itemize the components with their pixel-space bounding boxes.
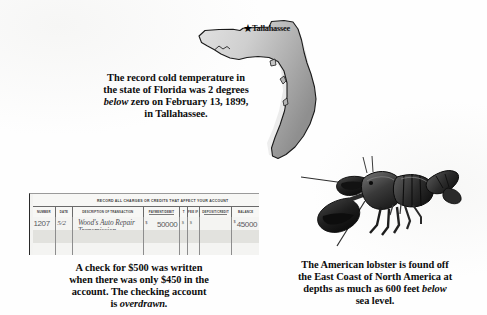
florida-caption-line3: zero on February 13, 1899, (128, 96, 248, 107)
cell-balance-amount: $45000 (232, 217, 259, 230)
lobster-eye (369, 181, 373, 185)
cell-date: 5/2 (56, 217, 73, 230)
check-register-body: RECORD ALL CHARGES OR CREDITS THAT AFFEC… (33, 194, 260, 255)
cell-payment-amount: $50000 (144, 217, 180, 230)
florida-caption-italic-word: below (104, 96, 129, 107)
florida-caption-line4: in Tallahassee. (144, 108, 207, 119)
antennule-right (372, 156, 373, 172)
lobster-caption-italic-word: below (422, 283, 447, 294)
walking-leg-4 (405, 206, 410, 229)
check-caption: A check for $500 was written when there … (26, 262, 252, 310)
payment-cents: 00 (169, 220, 177, 229)
florida-caption-line1: The record cold temperature in (107, 72, 245, 83)
table-row (33, 243, 260, 255)
payment-dollar-sign: $ (145, 220, 147, 225)
table-row: 1207 5/2 Wood's Auto Repair Transmission… (33, 217, 260, 231)
cell-fee: $ (188, 217, 200, 230)
balance-cents: 00 (249, 220, 257, 229)
fee-mark: $ (190, 220, 192, 225)
balance-dollar-sign: $ (233, 219, 235, 224)
payment-dollars: 500 (157, 220, 169, 229)
lobster-caption-line1: The American lobster is found off (301, 259, 448, 270)
walking-leg-2 (382, 209, 389, 235)
check-register-figure: RECORD ALL CHARGES OR CREDITS THAT AFFEC… (29, 193, 259, 255)
walking-leg-3 (394, 207, 399, 233)
balance-dollars: 450 (237, 220, 249, 229)
check-caption-line2: when there was only $450 in the (69, 274, 209, 285)
table-row (33, 230, 260, 244)
walking-leg-5 (413, 205, 421, 224)
cell-check-number: 1207 (33, 217, 57, 230)
cell-description: Wood's Auto Repair Transmission (73, 217, 144, 230)
tallahassee-label: Tallahassee (252, 24, 290, 33)
big-bend-inlet (270, 59, 276, 66)
check-caption-line1: A check for $500 was written (76, 262, 203, 273)
american-lobster-photo-icon (293, 143, 468, 251)
walking-leg-1 (370, 207, 381, 233)
check-caption-line4: is (110, 298, 119, 309)
cell-deposit (200, 217, 232, 230)
lobster-figure (293, 143, 468, 251)
florida-caption-line2: the state of Florida was 2 degrees (103, 84, 248, 95)
cell-tick: $ (180, 217, 188, 230)
telson (443, 188, 461, 204)
lobster-caption-line3: depths as much as 600 feet (303, 283, 422, 294)
florida-caption: The record cold temperature in the state… (78, 72, 274, 120)
lobster-caption-line4: sea level. (356, 295, 395, 306)
worksheet-page: ★ Tallahassee The record cold temperatur… (0, 0, 487, 315)
abdomen (393, 175, 433, 207)
tick-mark: $ (182, 220, 184, 225)
check-caption-italic-word: overdrawn. (120, 298, 168, 309)
lobster-caption: The American lobster is found off the Ea… (272, 259, 478, 307)
lobster-caption-line2: the East Coast of North America at (298, 271, 452, 282)
check-caption-line3: account. The checking account (72, 286, 207, 297)
antennule-left (363, 157, 367, 173)
